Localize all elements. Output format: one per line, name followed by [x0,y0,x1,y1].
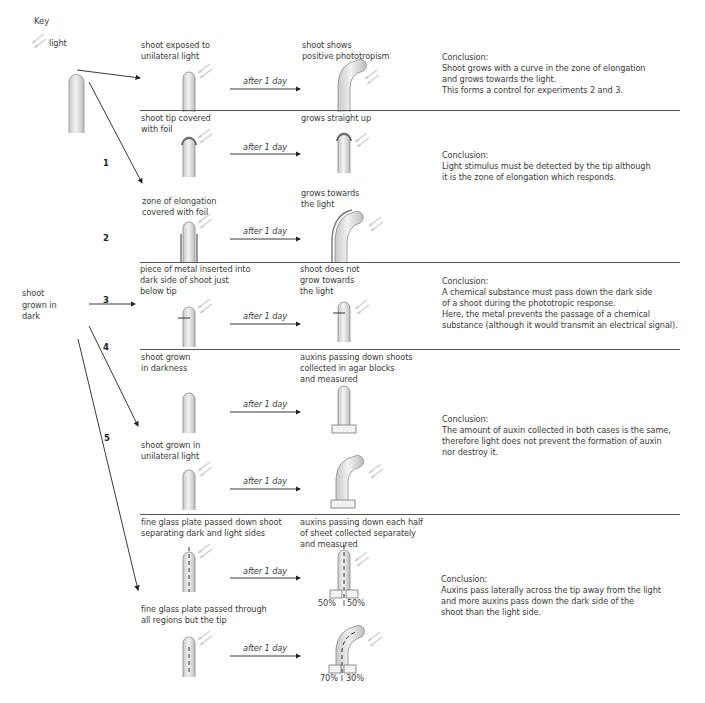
exp2b-before-label: zone of elongation covered with foil [142,196,216,218]
exp1-arrow-label: after 1 day [243,76,287,87]
exp4a-arrow-label: after 1 day [243,399,287,410]
exp4b-before-label: shoot grown in unilateral light [141,440,200,462]
exp3-conclusion-title: Conclusion: [442,276,488,287]
branch-arrow-5 [78,339,138,590]
exp2-conclusion: Light stimulus must be detected by the t… [442,161,651,183]
exp3-arrow-label: after 1 day [243,311,287,322]
exp5b-arrow-label: after 1 day [243,643,287,654]
exp1-conclusion-title: Conclusion: [442,52,488,63]
exp2-conclusion-title: Conclusion: [442,150,488,161]
branch-arrow-1 [77,70,140,78]
branch-arrows [77,70,142,590]
branch-number-1: 1 [103,158,109,168]
exp4b-arrow-label: after 1 day [243,476,287,487]
exp4-conclusion-title: Conclusion: [442,414,488,425]
shoot-before-1 [183,72,195,112]
branch-arrow-4 [89,326,138,426]
exp1-after-label: shoot shows positive phototropism [302,40,389,62]
exp4a-before-label: shoot grown in darkness [141,352,190,374]
shoot-metal [183,307,195,347]
exp1-before-label: shoot exposed to unilateral light [141,40,210,62]
shoot-tip-foil [183,137,195,177]
exp5-conclusion-title: Conclusion: [441,574,487,585]
exp3-conclusion: A chemical substance must pass down the … [442,287,678,331]
key-light-label: light [49,38,67,49]
key-title: Key [34,16,49,27]
branch-number-5: 5 [104,433,110,443]
divider-2 [140,262,680,263]
key-light-icon [32,34,46,48]
shoot-curved-1 [338,59,367,112]
shoot-unilateral [183,470,195,510]
divider-1 [140,110,680,111]
exp5a-right-percent: 50% [347,598,365,609]
exp4-conclusion: The amount of auxin collected in both ca… [442,425,671,458]
exp3-before-label: piece of metal inserted into dark side o… [140,264,250,297]
exp2b-arrow-label: after 1 day [243,226,287,237]
origin-shoot [69,75,84,133]
shoot-dark [183,393,195,433]
exp2a-arrow-label: after 1 day [243,142,287,153]
exp3-after-label: shoot does not grow towards the light [300,264,359,297]
exp5b-right-percent: 30% [346,673,364,684]
divider-4 [140,514,680,515]
exp2b-after-label: grows towards the light [301,188,359,210]
branch-number-2: 2 [103,233,109,243]
origin-label: shoot grown in dark [22,288,57,323]
exp5a-left-percent: 50% [318,598,336,609]
divider-3 [140,349,680,350]
branch-number-3: 3 [103,295,109,305]
exp1-conclusion: Shoot grows with a curve in the zone of … [442,63,645,96]
exp5a-before-label: fine glass plate passed down shoot separ… [141,517,282,539]
exp2a-before-label: shoot tip covered with foil [141,113,211,135]
exp2a-after-label: grows straight up [301,113,371,124]
exp5b-before-label: fine glass plate passed through all regi… [141,604,267,626]
exp5b-left-percent: 70% [320,673,338,684]
branch-number-4: 4 [103,342,109,352]
exp5-conclusion: Auxins pass laterally across the tip awa… [441,585,661,618]
shoot-zone-foil [183,222,195,262]
exp5a-after-label: auxins passing down each half of sheet c… [300,517,423,550]
branch-arrow-2 [89,82,142,183]
exp4a-after-label: auxins passing down shoots collected in … [300,352,412,385]
exp5a-arrow-label: after 1 day [243,566,287,577]
